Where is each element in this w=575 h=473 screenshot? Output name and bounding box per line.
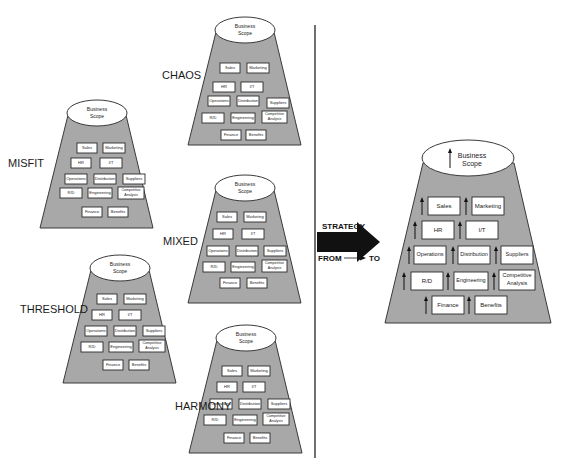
box-rd: R/D <box>211 264 218 269</box>
strategy-label: STRATEGY <box>322 222 366 231</box>
box-engineering: Engineering <box>232 115 253 120</box>
box-it: I/T <box>250 84 255 89</box>
state-label-mixed: MIXED <box>163 235 198 247</box>
box-distribution: Distribution <box>95 176 115 181</box>
box-hr: HR <box>99 312 105 317</box>
box-benefits: Benefits <box>250 280 264 285</box>
box-competitive: Competitive <box>143 341 162 345</box>
box-operations: Operations <box>208 248 228 253</box>
state-label-harmony: HARMONY <box>175 400 232 412</box>
scope-label: Scope <box>238 30 252 36</box>
box-marketing: Marketing <box>126 296 144 301</box>
box-rd: R/D <box>422 278 433 284</box>
box-distribution: Distribution <box>115 328 135 333</box>
svg-text:Business: Business <box>236 331 257 337</box>
scope-label: Business <box>235 23 256 29</box>
box-benefits: Benefits <box>480 302 502 308</box>
figure-chaos: Business Scope Sales Marketing HR I/T Op… <box>188 17 301 145</box>
svg-text:Scope: Scope <box>113 268 127 274</box>
svg-text:Analysis: Analysis <box>268 266 282 270</box>
box-rd: R/D <box>89 344 96 349</box>
svg-text:Business: Business <box>235 181 256 187</box>
strategy-diagram: Business Scope Sales Marketing HR I/T Op… <box>0 0 575 473</box>
svg-text:Analysis: Analysis <box>145 346 159 350</box>
state-label-chaos: CHAOS <box>162 69 201 81</box>
svg-text:Analysis: Analysis <box>124 193 138 197</box>
box-rd: R/D <box>210 115 217 120</box>
box-suppliers: Suppliers <box>267 248 284 253</box>
figure-mixed: Business Scope Sales Marketing HR I/T Op… <box>188 175 301 303</box>
figure-harmony: Business Scope Sales Marketing HR I/T Op… <box>189 325 302 453</box>
box-competitive: Competitive <box>265 112 284 116</box>
svg-text:Business: Business <box>110 261 131 267</box>
box-engineering: Engineering <box>89 190 110 195</box>
box-finance: Finance <box>437 302 459 308</box>
box-sales: Sales <box>222 214 232 219</box>
svg-text:Scope: Scope <box>90 113 104 119</box>
box-benefits: Benefits <box>111 209 125 214</box>
box-sales: Sales <box>225 65 235 70</box>
figure-misfit: Business Scope Sales Marketing HR I/T Op… <box>40 100 153 228</box>
box-hr: HR <box>78 160 84 165</box>
svg-text:Scope: Scope <box>238 188 252 194</box>
svg-text:Scope: Scope <box>239 338 253 344</box>
box-benefits: Benefits <box>249 132 263 137</box>
to-label: TO <box>369 254 380 263</box>
box-marketing: Marketing <box>105 145 123 150</box>
box-operations: Operations <box>209 98 229 103</box>
box-competitive: Competitive <box>265 261 284 265</box>
box-suppliers: Suppliers <box>271 401 288 406</box>
box-distribution: Distribution <box>238 98 258 103</box>
box-hr: HR <box>221 84 227 89</box>
from-label: FROM <box>318 254 342 263</box>
box-operations: Operations <box>86 328 106 333</box>
box-it: I/T <box>251 231 256 236</box>
scope-label: Scope <box>462 160 482 168</box>
box-engineering: Engineering <box>456 277 485 283</box>
box-distribution: Distribution <box>237 248 257 253</box>
svg-text:Business: Business <box>87 106 108 112</box>
box-sales: Sales <box>227 368 237 373</box>
box-finance: Finance <box>223 280 238 285</box>
svg-text:Analysis: Analysis <box>268 117 282 121</box>
box-operations: Operations <box>417 251 444 257</box>
figure-target-aligned: Business Scope Sales Marketing HR I/T Op… <box>385 140 551 323</box>
box-sales: Sales <box>436 203 451 209</box>
figure-threshold: Business Scope Sales Marketing HR I/T Op… <box>63 255 176 383</box>
box-sales: Sales <box>82 145 92 150</box>
box-it: I/T <box>252 384 257 389</box>
box-benefits: Benefits <box>132 362 146 367</box>
box-competitive: Competitive <box>267 414 286 418</box>
box-suppliers: Suppliers <box>146 328 163 333</box>
box-benefits: Benefits <box>253 435 267 440</box>
box-suppliers: Suppliers <box>126 176 143 181</box>
box-marketing: Marketing <box>250 368 268 373</box>
box-engineering: Engineering <box>110 344 131 349</box>
box-marketing: Marketing <box>246 214 264 219</box>
box-competitive: Competitive <box>502 272 531 278</box>
box-rd: R/D <box>68 190 75 195</box>
box-operations: Operations <box>66 176 86 181</box>
svg-text:Analysis: Analysis <box>269 419 283 423</box>
svg-text:Analysis: Analysis <box>507 280 528 286</box>
box-engineering: Engineering <box>234 417 255 422</box>
box-suppliers: Suppliers <box>506 251 529 257</box>
box-finance: Finance <box>106 362 121 367</box>
box-it: I/T <box>109 160 114 165</box>
box-suppliers: Suppliers <box>270 100 287 105</box>
box-marketing: Marketing <box>475 203 501 209</box>
box-hr: HR <box>224 384 230 389</box>
box-marketing: Marketing <box>249 65 267 70</box>
box-distribution: Distribution <box>460 251 488 257</box>
strategy-arrow: STRATEGY FROM TO <box>317 222 380 263</box>
box-hr: HR <box>220 231 226 236</box>
box-finance: Finance <box>85 209 100 214</box>
box-finance: Finance <box>224 132 239 137</box>
box-competitive: Competitive <box>122 188 141 192</box>
state-label-threshold: THRESHOLD <box>20 303 88 315</box>
scope-label: Business <box>458 152 487 159</box>
box-hr: HR <box>434 227 443 233</box>
state-label-misfit: MISFIT <box>8 157 44 169</box>
box-finance: Finance <box>227 435 242 440</box>
box-it: I/T <box>128 312 133 317</box>
